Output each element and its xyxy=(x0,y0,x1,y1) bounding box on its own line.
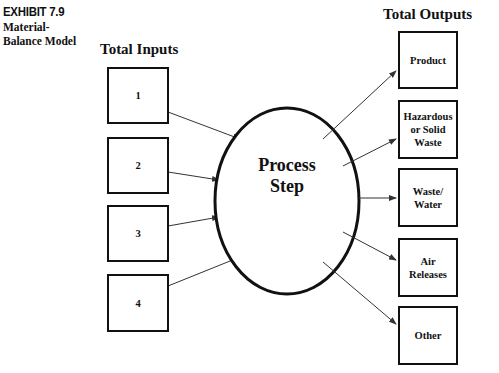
output-label: Other xyxy=(415,329,442,342)
output-label: Hazardous or Solid Waste xyxy=(402,110,454,149)
process-step-ellipse xyxy=(215,108,359,294)
input-label: 2 xyxy=(135,159,140,172)
output-arrow-other xyxy=(323,262,396,324)
input-arrow-2 xyxy=(168,172,219,180)
input-arrow-1 xyxy=(168,112,240,139)
output-label: Product xyxy=(410,54,446,67)
output-label: Waste/ Water xyxy=(408,185,448,211)
output-arrow-product xyxy=(323,71,396,139)
process-step-label: Process Step xyxy=(237,155,337,197)
input-box-1: 1 xyxy=(107,67,169,124)
input-box-2: 2 xyxy=(107,137,169,194)
input-label: 4 xyxy=(135,297,140,310)
process-line1: Process xyxy=(237,155,337,176)
input-arrow-3 xyxy=(168,217,219,226)
input-arrow-4 xyxy=(168,257,240,286)
output-box-product: Product xyxy=(398,31,458,89)
output-arrow-hazardous xyxy=(343,139,396,166)
output-box-air: Air Releases xyxy=(398,238,458,297)
output-box-wastewater: Waste/ Water xyxy=(398,168,458,227)
input-label: 3 xyxy=(135,227,140,240)
input-label: 1 xyxy=(135,89,140,102)
process-line2: Step xyxy=(237,176,337,197)
output-label: Air Releases xyxy=(404,255,452,281)
output-box-hazardous: Hazardous or Solid Waste xyxy=(398,100,458,159)
input-box-3: 3 xyxy=(107,205,169,262)
input-box-4: 4 xyxy=(107,274,169,332)
output-box-other: Other xyxy=(398,306,458,365)
